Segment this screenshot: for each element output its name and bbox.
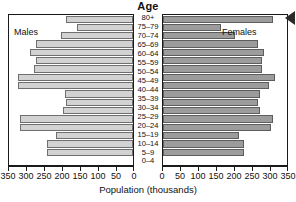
bar <box>47 149 133 156</box>
axis-tick-label: 200 <box>226 171 241 182</box>
bar-row <box>163 40 287 48</box>
age-tick-label: 20–24 <box>134 121 162 130</box>
bar-row <box>163 123 287 131</box>
bar <box>20 115 133 122</box>
axis-tick-label: 350 <box>0 171 15 182</box>
axis-tick-label: 200 <box>54 171 69 182</box>
bar-row <box>163 57 287 65</box>
bar <box>66 99 133 106</box>
bar <box>163 82 269 89</box>
bar-row <box>163 48 287 56</box>
bar-row <box>9 48 133 56</box>
bar-row <box>163 90 287 98</box>
axis-tick-label: 50 <box>175 171 185 182</box>
chart-title: Age <box>0 0 296 13</box>
axis-tick-label: 150 <box>72 171 87 182</box>
bar <box>34 65 133 72</box>
bar <box>56 132 133 139</box>
bar <box>36 40 133 47</box>
bar-row <box>163 98 287 106</box>
bar <box>65 90 133 97</box>
bar <box>66 16 133 23</box>
males-x-tick-labels: 350300250200150100500 <box>8 171 134 183</box>
age-tick-label: 25–29 <box>134 112 162 121</box>
bar <box>163 107 260 114</box>
bar <box>163 40 258 47</box>
bar <box>36 57 133 64</box>
bar <box>163 49 264 56</box>
males-series-label: Males <box>14 27 38 37</box>
x-axis-title: Population (thousands) <box>0 184 296 196</box>
bar <box>163 57 262 64</box>
axis-tick-label: 150 <box>208 171 223 182</box>
bar-row <box>163 65 287 73</box>
bar <box>77 24 133 31</box>
bar-row <box>9 82 133 90</box>
bar-row <box>9 57 133 65</box>
axis-tick-label: 100 <box>190 171 205 182</box>
bar <box>30 49 133 56</box>
left-pointing-triangle-icon <box>285 11 295 25</box>
females-series-label: Females <box>222 27 257 37</box>
bar-row <box>163 148 287 156</box>
bar <box>163 124 271 131</box>
bar-row <box>9 123 133 131</box>
bar-row <box>163 15 287 23</box>
axis-tick-label: 300 <box>18 171 33 182</box>
bar-row <box>163 107 287 115</box>
axis-tick-label: 250 <box>244 171 259 182</box>
bar <box>163 149 244 156</box>
bar <box>20 124 133 131</box>
bar <box>18 74 133 81</box>
bar-row <box>163 132 287 140</box>
bar <box>163 115 273 122</box>
population-pyramid-chart: Age Males Females 80+75–7970–7465–6960–6… <box>0 0 296 202</box>
age-tick-label: 15–19 <box>134 130 162 139</box>
age-category-axis: 80+75–7970–7465–6960–6455–5950–5445–4940… <box>134 14 162 166</box>
bar <box>163 140 244 147</box>
age-tick-label: 30–34 <box>134 103 162 112</box>
bar <box>163 99 258 106</box>
bar-row <box>9 132 133 140</box>
axis-tick-label: 250 <box>36 171 51 182</box>
axis-tick-label: 100 <box>90 171 105 182</box>
bar-row <box>9 90 133 98</box>
bar <box>163 24 221 31</box>
bar-row <box>163 73 287 81</box>
bar <box>163 74 275 81</box>
bar-row <box>163 82 287 90</box>
bar <box>61 32 133 39</box>
axis-tick-label: 0 <box>159 171 164 182</box>
bar-row <box>9 115 133 123</box>
bar <box>47 140 133 147</box>
bar-row <box>9 73 133 81</box>
females-x-tick-labels: 050100150200250300350 <box>162 171 288 183</box>
bar-row <box>9 98 133 106</box>
bar-row <box>9 107 133 115</box>
bar <box>163 65 262 72</box>
axis-tick-label: 300 <box>262 171 277 182</box>
bar <box>163 16 273 23</box>
axis-tick-label: 0 <box>131 171 136 182</box>
axis-tick-label: 50 <box>111 171 121 182</box>
age-tick-label: 10–14 <box>134 139 162 148</box>
axis-tick-label: 350 <box>280 171 295 182</box>
bar-row <box>163 115 287 123</box>
bar-row <box>9 15 133 23</box>
bar-row <box>9 65 133 73</box>
bar-row <box>163 140 287 148</box>
bar <box>163 90 260 97</box>
age-tick-label: 0–4 <box>134 157 162 166</box>
bar <box>163 132 239 139</box>
bar-row <box>9 148 133 156</box>
bar <box>63 107 133 114</box>
bar-row <box>9 140 133 148</box>
bar-row <box>9 40 133 48</box>
bar <box>18 82 133 89</box>
